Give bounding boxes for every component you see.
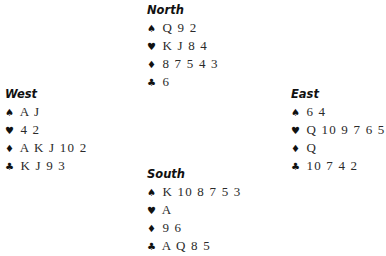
hand-title-north: North xyxy=(147,3,219,19)
cards-hearts: 4 2 xyxy=(20,122,40,137)
cards-hearts: A xyxy=(162,202,173,217)
cards-spades: Q 9 2 xyxy=(162,20,197,35)
suit-row-hearts: ♥ 4 2 xyxy=(5,121,87,139)
suit-row-hearts: ♥ A xyxy=(147,201,242,219)
cards-spades: K 10 8 7 5 3 xyxy=(162,184,241,199)
cards-clubs: 10 7 4 2 xyxy=(306,158,358,173)
diamond-icon: ♦ xyxy=(5,140,16,158)
heart-icon: ♥ xyxy=(5,122,16,140)
suit-row-spades: ♠ 6 4 xyxy=(291,103,386,121)
club-icon: ♣ xyxy=(147,238,158,256)
cards-spades: 6 4 xyxy=(306,104,326,119)
cards-diamonds: A K J 10 2 xyxy=(20,140,88,155)
diamond-icon: ♦ xyxy=(147,220,158,238)
suit-row-clubs: ♣ 10 7 4 2 xyxy=(291,157,386,175)
suit-row-diamonds: ♦ Q xyxy=(291,139,386,157)
cards-diamonds: Q xyxy=(306,140,317,155)
suit-row-diamonds: ♦ A K J 10 2 xyxy=(5,139,87,157)
hand-north: North ♠ Q 9 2 ♥ K J 8 4 ♦ 8 7 5 4 3 ♣ 6 xyxy=(147,3,219,91)
suit-row-spades: ♠ A J xyxy=(5,103,87,121)
hand-title-south: South xyxy=(147,167,242,183)
diamond-icon: ♦ xyxy=(147,56,158,74)
diamond-icon: ♦ xyxy=(291,140,302,158)
suit-row-clubs: ♣ K J 9 3 xyxy=(5,157,87,175)
cards-clubs: A Q 8 5 xyxy=(162,238,211,253)
suit-row-hearts: ♥ K J 8 4 xyxy=(147,37,219,55)
hand-south: South ♠ K 10 8 7 5 3 ♥ A ♦ 9 6 ♣ A Q 8 5 xyxy=(147,167,242,255)
suit-row-spades: ♠ K 10 8 7 5 3 xyxy=(147,183,242,201)
hand-title-east: East xyxy=(291,87,386,103)
cards-spades: A J xyxy=(20,104,41,119)
club-icon: ♣ xyxy=(291,158,302,176)
spade-icon: ♠ xyxy=(147,20,158,38)
suit-row-clubs: ♣ A Q 8 5 xyxy=(147,237,242,255)
heart-icon: ♥ xyxy=(147,38,158,56)
spade-icon: ♠ xyxy=(147,184,158,202)
suit-row-spades: ♠ Q 9 2 xyxy=(147,19,219,37)
cards-clubs: K J 9 3 xyxy=(20,158,66,173)
club-icon: ♣ xyxy=(5,158,16,176)
suit-row-hearts: ♥ Q 10 9 7 6 5 xyxy=(291,121,386,139)
hand-east: East ♠ 6 4 ♥ Q 10 9 7 6 5 ♦ Q ♣ 10 7 4 2 xyxy=(291,87,386,175)
hand-title-west: West xyxy=(5,87,87,103)
spade-icon: ♠ xyxy=(291,104,302,122)
cards-hearts: Q 10 9 7 6 5 xyxy=(306,122,385,137)
heart-icon: ♥ xyxy=(291,122,302,140)
suit-row-diamonds: ♦ 9 6 xyxy=(147,219,242,237)
cards-clubs: 6 xyxy=(162,74,170,89)
spade-icon: ♠ xyxy=(5,104,16,122)
hand-west: West ♠ A J ♥ 4 2 ♦ A K J 10 2 ♣ K J 9 3 xyxy=(5,87,87,175)
cards-diamonds: 9 6 xyxy=(162,220,182,235)
cards-diamonds: 8 7 5 4 3 xyxy=(162,56,218,71)
suit-row-diamonds: ♦ 8 7 5 4 3 xyxy=(147,55,219,73)
suit-row-clubs: ♣ 6 xyxy=(147,73,219,91)
cards-hearts: K J 8 4 xyxy=(162,38,208,53)
club-icon: ♣ xyxy=(147,74,158,92)
heart-icon: ♥ xyxy=(147,202,158,220)
